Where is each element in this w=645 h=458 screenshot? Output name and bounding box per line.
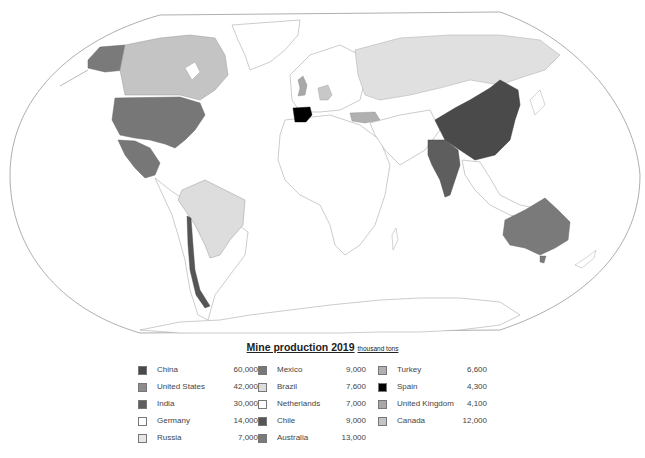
legend-value: 12,000 — [378, 416, 487, 425]
legend-unit: thousand tons — [358, 345, 399, 352]
legend-value: 60,000 — [138, 365, 258, 374]
legend-value: 13,000 — [258, 433, 366, 442]
legend-value: 4,100 — [378, 399, 487, 408]
legend-value: 42,000 — [138, 382, 258, 391]
legend-value: 30,000 — [138, 399, 258, 408]
legend-value: 4,300 — [378, 382, 487, 391]
region-canada — [120, 35, 228, 100]
legend-value: 9,000 — [258, 416, 366, 425]
legend-title: Mine production 2019thousand tons — [0, 341, 645, 353]
legend-value: 9,000 — [258, 365, 366, 374]
legend-value: 14,000 — [138, 416, 258, 425]
legend-value: 7,000 — [138, 433, 258, 442]
legend-value: 6,600 — [378, 365, 487, 374]
legend-value: 7,600 — [258, 382, 366, 391]
world-map — [0, 0, 645, 340]
legend-value: 7,000 — [258, 399, 366, 408]
legend-title-text: Mine production 2019 — [247, 341, 355, 353]
